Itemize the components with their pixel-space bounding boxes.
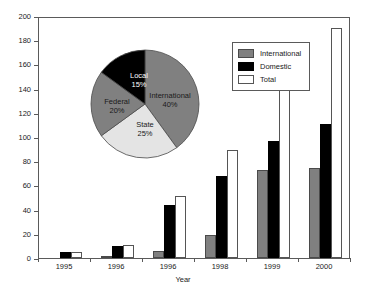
bar-total-1996 [175, 196, 186, 258]
pie-label-local: Local 15% [116, 71, 162, 89]
x-axis-tick-mark [142, 258, 143, 262]
x-axis-title: Year [0, 275, 366, 284]
bar-chart-figure: 020406080100120140160180200 Local 15% In… [0, 0, 366, 299]
y-axis-tick-label: 180 [18, 36, 31, 45]
y-axis-tick-label: 0 [27, 254, 31, 263]
x-axis-tick-label: 1995 [44, 262, 84, 271]
y-axis-tick-label: 60 [23, 181, 31, 190]
bar-domestic-1999 [268, 141, 279, 258]
x-axis-tick-mark [350, 258, 351, 262]
x-axis-tick-mark [194, 258, 195, 262]
legend-swatch-domestic [238, 62, 254, 71]
legend: InternationalDomesticTotal [232, 42, 310, 91]
y-axis-tick-label: 120 [18, 109, 31, 118]
x-axis-tick-mark [38, 258, 39, 262]
x-axis-tick-label: 1999 [252, 262, 292, 271]
y-axis-tick-label: 140 [18, 85, 31, 94]
x-axis-tick-mark [90, 258, 91, 262]
y-axis-tick-label: 160 [18, 60, 31, 69]
bar-domestic-2000 [320, 124, 331, 258]
pie-label-international: International 40% [140, 91, 200, 109]
y-axis-tick-label: 40 [23, 206, 31, 215]
plot-area: Local 15% International 40% Federal 20% … [38, 17, 350, 259]
bar-total-2000 [331, 28, 342, 258]
legend-item-domestic: Domestic [238, 60, 301, 73]
bar-international-1999 [257, 170, 268, 258]
legend-item-total: Total [238, 73, 301, 86]
x-axis-tick-label: 1996 [96, 262, 136, 271]
x-axis-tick-label: 2000 [304, 262, 344, 271]
bar-total-1996 [123, 245, 134, 258]
legend-swatch-international [238, 49, 254, 58]
legend-label-total: Total [260, 75, 276, 84]
bar-international-1996 [101, 256, 112, 258]
bar-international-1998 [205, 235, 216, 258]
x-axis-tick-mark [246, 258, 247, 262]
bar-total-1998 [227, 150, 238, 258]
bar-total-1995 [71, 252, 82, 258]
pie-label-state: State 25% [122, 120, 168, 138]
y-axis-tick-label: 20 [23, 230, 31, 239]
x-axis-tick-label: 1996 [148, 262, 188, 271]
bar-international-2000 [309, 168, 320, 258]
y-axis-tick-label: 80 [23, 157, 31, 166]
legend-label-international: International [260, 49, 301, 58]
x-axis-tick-label: 1998 [200, 262, 240, 271]
y-axis-tick-label: 100 [18, 133, 31, 142]
y-axis-tick-label: 200 [18, 12, 31, 21]
pie-label-federal: Federal 20% [94, 97, 140, 115]
legend-item-international: International [238, 47, 301, 60]
bar-domestic-1996 [112, 246, 123, 258]
bar-international-1996 [153, 251, 164, 258]
x-axis-tick-mark [298, 258, 299, 262]
pie-chart-inset: Local 15% International 40% Federal 20% … [90, 49, 200, 159]
bar-domestic-1995 [60, 252, 71, 258]
bar-domestic-1996 [164, 205, 175, 258]
legend-swatch-total [238, 75, 254, 84]
bar-domestic-1998 [216, 176, 227, 258]
legend-label-domestic: Domestic [260, 62, 291, 71]
